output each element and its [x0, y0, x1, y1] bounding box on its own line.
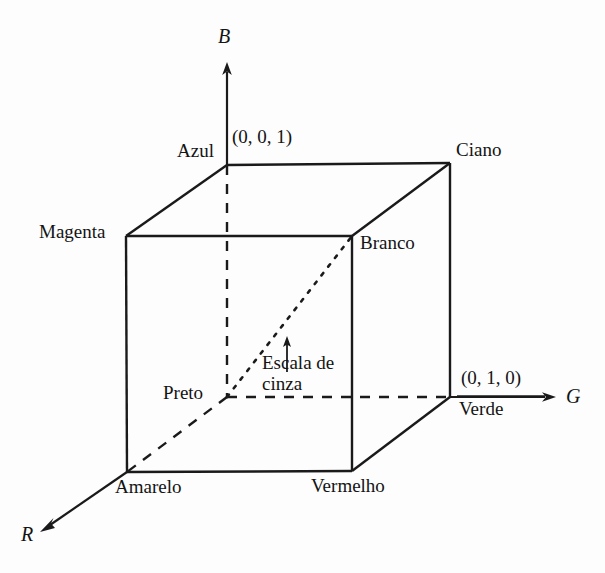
r-axis-line — [40, 472, 127, 532]
rgb-cube-figure: B G R Azul (0, 0, 1) Ciano Magenta Branc… — [0, 0, 605, 573]
grayscale-annotation-line1: Escala de — [262, 352, 334, 373]
vertex-coord-azul: (0, 0, 1) — [232, 127, 292, 147]
vertex-label-azul: Azul — [177, 141, 214, 161]
grayscale-annotation-line2: cinza — [262, 373, 334, 394]
g-axis-label: G — [566, 386, 580, 407]
b-axis-line — [222, 62, 232, 165]
vertex-label-vermelho: Amarelo — [115, 477, 181, 497]
r-axis-label: R — [21, 524, 33, 545]
vertex-label-branco: Branco — [360, 233, 415, 253]
cube-right-face-edges — [352, 163, 450, 471]
vertex-label-ciano: Ciano — [456, 140, 501, 160]
vertex-label-verde: Verde — [459, 399, 503, 419]
grayscale-annotation: Escala de cinza — [262, 352, 334, 395]
vertex-label-preto: Preto — [163, 383, 203, 403]
rgb-cube-drawing — [0, 0, 605, 573]
b-axis-label: B — [218, 26, 230, 47]
cube-top-face-edges — [126, 163, 450, 236]
vertex-label-magenta: Magenta — [39, 222, 105, 242]
vertex-coord-verde: (0, 1, 0) — [461, 368, 521, 388]
vertex-label-amarelo: Vermelho — [311, 476, 385, 496]
